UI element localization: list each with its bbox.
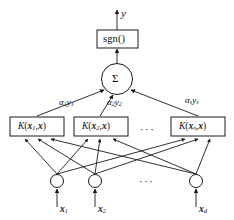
input-label-2: x2 xyxy=(98,205,106,215)
edge-input1-to-kernel1 xyxy=(25,139,57,174)
weight-label-3: αsys xyxy=(185,96,199,105)
kernel-close-2: ) xyxy=(107,121,110,131)
kernel-label-3: K(xs,x) xyxy=(179,122,206,132)
edge-input3-to-kernel3 xyxy=(196,139,210,174)
output-label: y xyxy=(121,8,126,19)
input-sub-2: 2 xyxy=(103,207,106,214)
svm-architecture-diagram: y sgn() Σ α1y1 α2y2 αsys K(x1,x) K(x2,x)… xyxy=(0,0,234,220)
kernel-label-2: K(x2,x) xyxy=(82,122,110,132)
weight-y-sub-1: 1 xyxy=(71,101,74,107)
input-label-1: x1 xyxy=(60,205,68,215)
sum-label: Σ xyxy=(112,73,118,84)
input-sub-1: 1 xyxy=(65,207,68,214)
input-row-ellipsis: ··· xyxy=(139,176,154,187)
weight-y-sub-3: s xyxy=(196,99,198,105)
weight-label-2: α2y2 xyxy=(107,98,122,107)
edge-input2-to-kernel2 xyxy=(95,139,100,174)
weight-y-sub-2: 2 xyxy=(119,101,122,107)
kernel-close-3: ) xyxy=(203,121,206,131)
input-label-3: xd xyxy=(199,205,207,215)
sgn-label: sgn() xyxy=(103,34,125,45)
input-sub-3: d xyxy=(204,207,207,214)
edge-input2-to-kernel1 xyxy=(38,139,95,174)
input-node-3 xyxy=(190,175,203,188)
kernel-label-1: K(x1,x) xyxy=(18,122,46,132)
weight-label-1: α1y1 xyxy=(59,98,74,107)
edge-input1-to-kernel3 xyxy=(57,139,185,174)
input-node-2 xyxy=(89,175,102,188)
kernel-close-1: ) xyxy=(43,121,46,131)
input-node-1 xyxy=(51,175,64,188)
kernel-row-ellipsis: ··· xyxy=(140,124,155,135)
